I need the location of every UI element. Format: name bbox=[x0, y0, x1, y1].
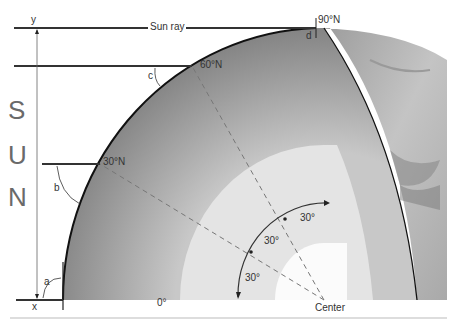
arc-angle-bottom: 30° bbox=[245, 272, 260, 283]
sun-letter-n: N bbox=[8, 182, 27, 213]
arc-angle-middle: 30° bbox=[264, 235, 279, 246]
sun-ray-label: Sun ray bbox=[148, 21, 186, 32]
sun-letter-s: S bbox=[8, 95, 25, 126]
center-label: Center bbox=[315, 302, 345, 313]
label-x: x bbox=[32, 301, 37, 312]
latitude-30n: 30°N bbox=[103, 156, 125, 167]
latitude-0: 0° bbox=[157, 297, 167, 308]
label-y: y bbox=[31, 14, 36, 25]
latitude-90n: 90°N bbox=[318, 14, 340, 25]
arc-angle-top: 30° bbox=[300, 212, 315, 223]
angle-c-label: c bbox=[148, 70, 153, 81]
angle-d-label: d bbox=[306, 30, 312, 41]
angle-a-label: a bbox=[44, 276, 50, 287]
earth-sun-diagram: y Sun ray 90°N d 60°N c 30°N b a x 0° Ce… bbox=[0, 0, 463, 325]
diagram-canvas bbox=[0, 0, 463, 325]
sun-letter-u: U bbox=[8, 140, 27, 171]
angle-b-label: b bbox=[54, 182, 60, 193]
latitude-60n: 60°N bbox=[200, 59, 222, 70]
